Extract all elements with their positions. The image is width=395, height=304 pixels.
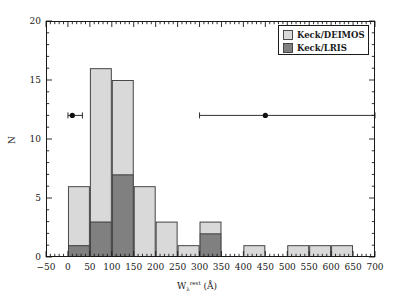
bar-deimos-bin-100 <box>112 80 134 174</box>
y-tick-label: 15 <box>30 75 42 85</box>
y-tick-label: 20 <box>30 16 42 26</box>
x-tick-label: 300 <box>191 262 208 272</box>
bar-deimos-bin-600 <box>331 245 353 257</box>
bar-lris-bin-300 <box>200 233 222 257</box>
figure-container: −500501001502002503003504004505005506006… <box>0 0 395 304</box>
x-tick-label: 200 <box>147 262 164 272</box>
y-tick-label: 10 <box>30 134 42 144</box>
y-tick-label: 5 <box>35 193 41 203</box>
y-axis-title-text: N <box>7 136 17 144</box>
bar-lris-bin-0 <box>68 245 90 257</box>
x-tick-label: 500 <box>279 262 296 272</box>
legend-swatch <box>284 31 293 40</box>
x-tick-label: 50 <box>84 262 96 272</box>
bar-deimos-bin-550 <box>309 245 331 257</box>
legend-label: Keck/LRIS <box>297 43 347 53</box>
bar-deimos-bin-50 <box>90 68 112 221</box>
histogram-chart: −500501001502002503003504004505005506006… <box>0 0 395 304</box>
errorbar-point <box>70 113 75 118</box>
x-tick-label: 250 <box>169 262 186 272</box>
x-tick-label: 0 <box>65 262 71 272</box>
errorbar-point <box>263 113 268 118</box>
bar-deimos-bin-150 <box>134 186 156 257</box>
bar-deimos-bin-500 <box>287 245 309 257</box>
x-tick-label: 600 <box>323 262 340 272</box>
x-tick-label: 350 <box>213 262 230 272</box>
bar-deimos-bin-400 <box>243 245 265 257</box>
bar-deimos-bin-200 <box>156 222 178 257</box>
legend-label: Keck/DEIMOS <box>297 30 365 40</box>
bar-deimos-bin-0 <box>68 186 90 245</box>
bar-lris-bin-50 <box>90 222 112 257</box>
x-tick-label: 450 <box>257 262 274 272</box>
x-tick-label: −50 <box>37 262 56 272</box>
x-tick-label: 100 <box>103 262 120 272</box>
legend-swatch <box>284 44 293 53</box>
x-tick-label: 550 <box>301 262 318 272</box>
bar-lris-bin-100 <box>112 174 134 257</box>
legend: Keck/DEIMOSKeck/LRIS <box>279 26 369 55</box>
x-tick-label: 650 <box>344 262 361 272</box>
bar-deimos-bin-300 <box>200 222 222 234</box>
bar-deimos-bin-250 <box>178 245 200 257</box>
x-tick-label: 150 <box>125 262 142 272</box>
x-tick-label: 400 <box>235 262 252 272</box>
x-tick-label: 700 <box>366 262 383 272</box>
y-axis-title: N <box>7 136 17 144</box>
y-tick-label: 0 <box>35 252 41 262</box>
